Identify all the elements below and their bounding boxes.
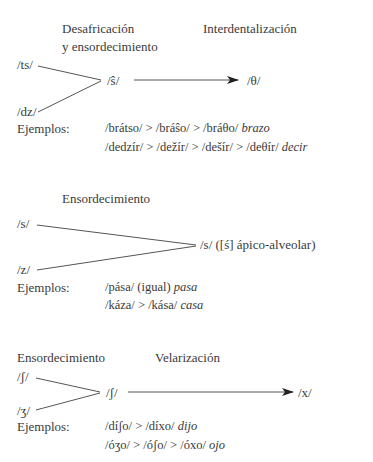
example-chain: /díʃo/ > /díxo/ <box>105 419 175 433</box>
d2-output: /s/ ([ś] ápico-alveolar) <box>200 237 316 252</box>
d1-top-converge-line <box>38 66 101 80</box>
d3-header-right: Velarización <box>155 350 220 365</box>
d3-example-2: /óʒo/ > /óʃo/ > /óxo/ ojo <box>105 438 225 453</box>
d2-bottom-converge-line <box>37 246 196 270</box>
example-gloss: dijo <box>178 419 197 433</box>
d1-header-left-line1: Desafricación <box>62 21 134 36</box>
d2-input-top: /s/ <box>17 216 29 231</box>
d3-output: /x/ <box>298 385 312 400</box>
d2-example-2: /káza/ > /kása/ casa <box>105 298 203 313</box>
d1-output: /θ/ <box>247 73 260 88</box>
d1-bottom-converge-line <box>38 81 101 112</box>
d1-input-top: /ts/ <box>17 57 33 72</box>
example-chain: /pása/ (igual) <box>105 280 171 294</box>
example-chain: /káza/ > /kása/ <box>105 298 177 312</box>
d1-example-2: /dedzír/ > /dežír/ > /dešír/ > /deθír/ d… <box>105 140 307 155</box>
example-chain: /brátso/ > /bráŝo/ > /bráθo/ <box>105 121 238 135</box>
d1-header-left-line2: y ensordecimiento <box>62 39 158 54</box>
d3-bottom-converge-line <box>36 393 100 410</box>
d3-example-1: /díʃo/ > /díxo/ dijo <box>105 419 197 434</box>
d2-example-1: /pása/ (igual) pasa <box>105 280 197 295</box>
example-chain: /óʒo/ > /óʃo/ > /óxo/ <box>105 438 206 452</box>
example-gloss: casa <box>180 298 203 312</box>
d1-examples-label: Ejemplos: <box>17 121 70 136</box>
example-chain: /dedzír/ > /dežír/ > /dešír/ > /deθír/ <box>105 140 279 154</box>
d3-examples-label: Ejemplos: <box>17 419 70 434</box>
example-gloss: decir <box>282 140 308 154</box>
d2-examples-label: Ejemplos: <box>17 280 70 295</box>
d1-merged: /ŝ/ <box>107 73 119 88</box>
example-gloss: brazo <box>241 121 269 135</box>
d1-header-right: Interdentalización <box>203 21 297 36</box>
d3-top-converge-line <box>36 378 100 392</box>
d3-header-left: Ensordecimiento <box>17 350 105 365</box>
d2-header: Ensordecimiento <box>62 191 150 206</box>
example-gloss: ojo <box>209 438 225 452</box>
d3-merged: /ʃ/ <box>106 385 118 400</box>
d1-example-1: /brátso/ > /bráŝo/ > /bráθo/ brazo <box>105 121 270 136</box>
d2-input-bottom: /z/ <box>17 262 30 277</box>
d3-input-bottom: /ʒ/ <box>17 403 30 418</box>
diagram-connector-lines <box>0 0 373 462</box>
d3-input-top: /ʃ/ <box>17 369 29 384</box>
example-gloss: pasa <box>174 280 198 294</box>
d2-top-converge-line <box>37 225 196 245</box>
d1-input-bottom: /dz/ <box>17 104 37 119</box>
